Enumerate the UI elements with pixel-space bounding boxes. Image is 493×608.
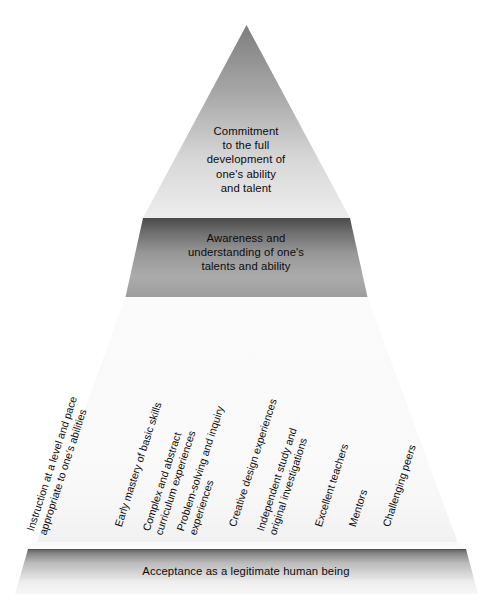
tier-2-label: Awareness and understanding of one's tal… [136, 231, 356, 274]
base-bar-label: Acceptance as a legitimate human being [96, 565, 396, 578]
pyramid-diagram: Commitment to the full development of on… [0, 0, 493, 608]
pyramid-graphic [0, 0, 493, 608]
tier-1-label: Commitment to the full development of on… [146, 124, 346, 195]
